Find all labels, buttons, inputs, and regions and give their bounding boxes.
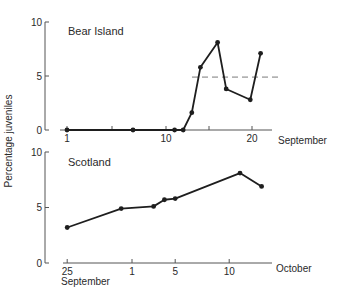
panel-title-bear-island: Bear Island [68,25,124,37]
chart-canvas: Percentage juveniles Bear Island Septemb… [0,0,337,299]
x-tick-label: 1 [129,266,135,277]
data-point [151,204,156,209]
juvenile-percentage-figure: Percentage juveniles Bear Island Septemb… [0,0,337,299]
y-tick-label: 5 [36,202,42,213]
x-tick-label: 5 [172,266,178,277]
data-point [189,110,194,115]
series-line-bear-island [67,43,261,130]
x-axis-label-september-start: September [61,276,111,287]
data-point [258,51,263,56]
y-tick-label: 5 [36,71,42,82]
data-point [238,171,243,176]
bear-island-panel: Bear Island September 051011020 [31,17,328,147]
data-point [65,128,70,133]
data-point [215,40,220,45]
y-tick-label: 0 [36,125,42,136]
data-point [248,97,253,102]
y-axis-label: Percentage juveniles [3,95,14,188]
data-point [119,206,124,211]
data-point [224,87,229,92]
data-point [131,128,136,133]
x-tick-label: 20 [246,133,258,144]
data-point [172,128,177,133]
x-axis-label-september: September [278,135,328,146]
data-point [65,225,70,230]
y-tick-label: 10 [31,17,43,28]
panel-title-scotland: Scotland [68,156,111,168]
scotland-panel: Scotland October September 0510251510 [31,147,312,288]
x-axis-label-october: October [276,263,312,274]
y-tick-label: 10 [31,147,43,158]
data-point [198,65,203,70]
y-tick-label: 0 [36,258,42,269]
data-point [181,128,186,133]
x-tick-label: 10 [160,133,172,144]
x-tick-label: 10 [224,266,236,277]
x-tick-label: 1 [64,133,70,144]
data-point [259,184,264,189]
x-tick-label: 25 [62,266,74,277]
data-point [162,197,167,202]
data-point [173,196,178,201]
